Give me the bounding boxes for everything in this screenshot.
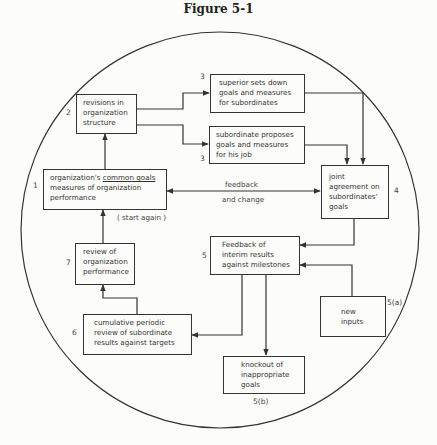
step-number-5a: 5(a): [387, 298, 402, 307]
step-number-7: 7: [66, 258, 71, 267]
box1-line1-pre: organization's: [50, 173, 103, 182]
arrow-3a-to-4: [304, 93, 363, 164]
box1-line1-underlined: common goals: [103, 173, 156, 182]
box5-line3: against milestones: [222, 260, 299, 270]
box7-line3: performance: [83, 267, 134, 277]
step-number-6: 6: [72, 328, 77, 337]
box3b-line1: subordinate proposes: [216, 130, 304, 140]
box5b-line2: inappropriate: [241, 370, 304, 380]
box4-line3: subordinates': [329, 192, 388, 202]
box4-line4: goals: [329, 202, 388, 212]
box5b-line1: knockout of: [241, 360, 304, 370]
box4-line1: joint: [329, 172, 388, 182]
box-knockout-goals: knockout of inappropriate goals: [223, 356, 305, 394]
box-subordinate-proposes: subordinate proposes goals and measures …: [209, 126, 305, 164]
arrow-4-to-5: [300, 218, 354, 245]
box1-line2: measures of organization: [50, 183, 166, 193]
box-common-goals: organization's common goals measures of …: [43, 169, 167, 210]
box5b-line3: goals: [241, 380, 304, 390]
diagram-connectors: [0, 0, 437, 445]
step-number-3a: 3: [200, 72, 205, 81]
box1-line3: performance: [50, 193, 166, 203]
step-number-5: 5: [202, 251, 207, 260]
box5-line2: interim results: [222, 250, 299, 260]
box-feedback-interim: Feedback of interim results against mile…: [210, 236, 300, 275]
box5-line1: Feedback of: [222, 240, 299, 250]
box-review-org-performance: review of organization performance: [75, 243, 135, 285]
box3a-line2: goals and measures: [219, 88, 304, 98]
arrow-5-to-6: [192, 274, 242, 335]
box-superior-sets-goals: superior sets down goals and measures fo…: [210, 74, 305, 113]
step-number-1: 1: [33, 181, 38, 190]
box2-line1: revisions in: [83, 98, 136, 108]
box5a-line2: inputs: [341, 317, 385, 327]
box-revisions-structure: revisions in organization structure: [76, 94, 137, 134]
label-start-again: ( start again ): [117, 213, 166, 222]
box3a-line3: for subordinates: [219, 98, 304, 108]
step-number-4: 4: [394, 186, 399, 195]
box-joint-agreement: joint agreement on subordinates' goals: [321, 165, 389, 219]
box-cumulative-review: cumulative periodic review of subordinat…: [83, 314, 192, 355]
box2-line2: organization: [83, 108, 136, 118]
box-new-inputs: new inputs: [320, 296, 386, 337]
box7-line2: organization: [83, 257, 134, 267]
box2-line3: structure: [83, 118, 136, 128]
box4-line2: agreement on: [329, 182, 388, 192]
box6-line2: review of subordinate: [94, 328, 191, 338]
arrow-5a-to-5: [300, 265, 352, 296]
arrow-2-to-3a: [136, 93, 209, 109]
box6-line3: results against targets: [94, 338, 191, 348]
label-feedback: feedback: [225, 180, 258, 189]
arrow-3b-to-4: [304, 145, 347, 164]
step-number-2: 2: [66, 108, 71, 117]
step-number-5b: 5(b): [253, 397, 268, 406]
box3a-line1: superior sets down: [219, 78, 304, 88]
step-number-3b: 3: [200, 154, 205, 163]
arrow-6-to-7: [103, 285, 137, 314]
box5a-line1: new: [341, 307, 385, 317]
box7-line1: review of: [83, 247, 134, 257]
box3b-line3: for his job: [216, 150, 304, 160]
box3b-line2: goals and measures: [216, 140, 304, 150]
label-and-change: and change: [222, 195, 264, 204]
arrow-2-to-3b: [136, 125, 208, 144]
box6-line1: cumulative periodic: [94, 318, 191, 328]
